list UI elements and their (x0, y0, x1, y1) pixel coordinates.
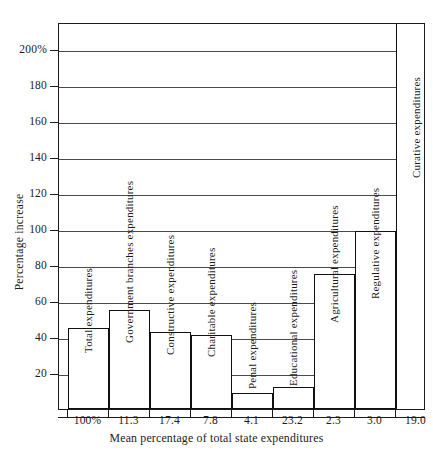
y-tick-mark-140 (50, 158, 58, 159)
x-tick-label-9: 19.0 (405, 415, 426, 427)
bar-label-5: Penal expenditures (247, 302, 258, 389)
y-tick-label-160: 160 (29, 116, 47, 128)
y-tick-label-80: 80 (35, 260, 47, 272)
y-tick-mark-120 (50, 194, 58, 195)
x-tick-label-6: 23.2 (282, 415, 303, 427)
y-tick-label-200: 200% (19, 44, 47, 56)
gridline-180 (59, 87, 424, 88)
y-tick-label-120: 120 (29, 188, 47, 200)
y-tick-mark-100 (50, 230, 58, 231)
bar-label-9: Curative expenditures (411, 77, 422, 178)
x-tick-label-1: 100% (74, 415, 102, 427)
gridline-140 (59, 159, 424, 160)
y-tick-mark-200 (50, 50, 58, 51)
gridline-200 (59, 51, 424, 52)
y-tick-mark-80 (50, 266, 58, 267)
y-tick-label-60: 60 (35, 296, 47, 308)
y-tick-label-40: 40 (35, 332, 47, 344)
bar-label-1: Total expenditures (83, 268, 94, 353)
bar-5[interactable] (232, 393, 273, 409)
x-tick-label-2: 11.3 (118, 415, 139, 427)
bar-label-2: Government branches expenditures (124, 181, 135, 343)
bar-6[interactable] (273, 387, 314, 409)
y-tick-mark-20 (50, 374, 58, 375)
y-tick-mark-160 (50, 122, 58, 123)
y-tick-label-100: 100 (29, 224, 47, 236)
chart-figure: Percentage increase 20406080100120140160… (0, 0, 433, 451)
x-tick-label-5: 4.1 (244, 415, 259, 427)
x-tick-label-7: 2.3 (326, 415, 341, 427)
x-tick-label-8: 3.0 (367, 415, 382, 427)
bar-label-7: Agricultural expenditures (329, 205, 340, 323)
bar-label-4: Charitable expenditures (206, 248, 217, 357)
gridline-160 (59, 123, 424, 124)
bar-label-3: Constructive expenditures (165, 235, 176, 355)
y-tick-label-140: 140 (29, 152, 47, 164)
y-tick-mark-180 (50, 86, 58, 87)
y-tick-mark-60 (50, 302, 58, 303)
bar-label-6: Educational expenditures (288, 270, 299, 386)
y-axis-labels: 20406080100120140160180200% (0, 0, 47, 451)
y-tick-label-180: 180 (29, 80, 47, 92)
y-tick-label-20: 20 (35, 368, 47, 380)
bar-label-8: Regulative expenditures (370, 188, 381, 299)
x-axis-title: Mean percentage of total state expenditu… (0, 431, 433, 446)
y-tick-mark-40 (50, 338, 58, 339)
x-tick-label-3: 17.4 (159, 415, 180, 427)
x-tick-label-4: 7.8 (203, 415, 218, 427)
